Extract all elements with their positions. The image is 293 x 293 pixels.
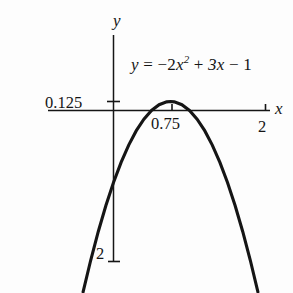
y-tick-label-0125: 0.125 bbox=[45, 95, 82, 112]
equation-term1-coefficient: −2 bbox=[157, 55, 176, 74]
x-tick-label-2: 2 bbox=[258, 119, 266, 136]
x-axis-label: x bbox=[275, 100, 283, 117]
equation-equals: = bbox=[143, 55, 153, 74]
equation-minus: − bbox=[229, 55, 239, 74]
equation-term1-variable: x bbox=[176, 55, 184, 74]
parabola-figure: y x y = −2x2 + 3x − 1 0.125 0.75 2 2 bbox=[0, 0, 293, 293]
equation-lhs: y bbox=[131, 55, 139, 74]
x-tick-label-075: 0.75 bbox=[151, 116, 180, 133]
plot-canvas bbox=[0, 0, 293, 293]
equation-plus: + bbox=[194, 55, 204, 74]
y-axis-label: y bbox=[113, 12, 121, 29]
equation-annotation: y = −2x2 + 3x − 1 bbox=[131, 56, 252, 73]
equation-term2: 3x bbox=[208, 55, 224, 74]
y-tick-label-neg2: 2 bbox=[96, 246, 104, 263]
equation-constant: 1 bbox=[243, 55, 252, 74]
equation-term1-exponent: 2 bbox=[184, 53, 190, 65]
